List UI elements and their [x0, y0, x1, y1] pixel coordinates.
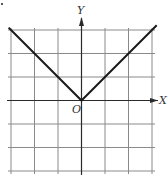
- x-axis-arrow-icon: [150, 98, 158, 103]
- abs-value-curve: [9, 25, 157, 100]
- origin-label: O: [72, 104, 81, 115]
- x-axis-label: X: [159, 95, 167, 106]
- y-axis-label: Y: [77, 5, 84, 16]
- axes: [7, 17, 158, 175]
- y-axis-arrow-icon: [79, 17, 84, 26]
- coordinate-plane: [0, 0, 168, 181]
